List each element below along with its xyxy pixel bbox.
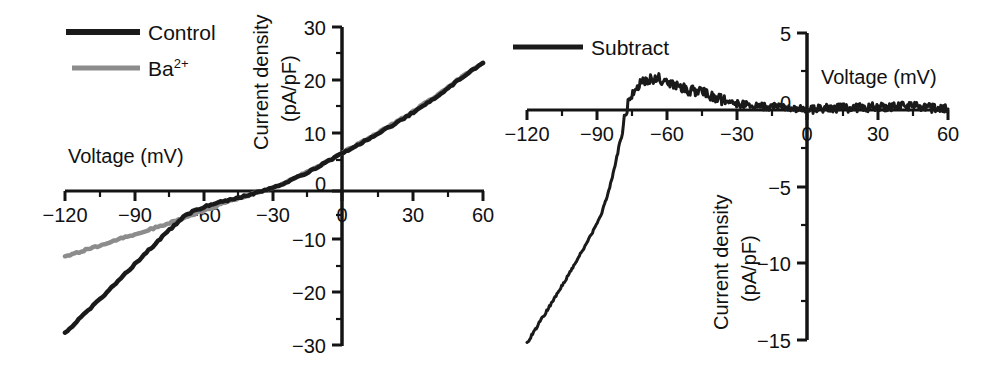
right-xtick-label-0: −120 bbox=[504, 123, 549, 145]
right-xtick-label-1: −90 bbox=[580, 123, 614, 145]
left-ytick-label-4: −10 bbox=[292, 229, 326, 251]
right-xtick-label-6: 60 bbox=[937, 123, 959, 145]
left-ytick-label-0: 30 bbox=[304, 17, 326, 39]
figure-iv-curves: Control Ba2+ Voltage (mV) Current densit… bbox=[0, 0, 991, 378]
legend-label-control: Control bbox=[148, 21, 216, 44]
left-xtick-label-1: −90 bbox=[118, 204, 152, 226]
right-yaxis-title-line1: Current density bbox=[710, 194, 732, 330]
left-xaxis-title: Voltage (mV) bbox=[68, 145, 184, 167]
right-xaxis-title: Voltage (mV) bbox=[821, 66, 937, 88]
right-ytick-label-4: −15 bbox=[757, 330, 791, 352]
left-ytick-label-2: 10 bbox=[304, 123, 326, 145]
left-ytick-label-3: 0 bbox=[315, 173, 326, 195]
right-ytick-label-2: −5 bbox=[768, 177, 791, 199]
left-plot-svg: Control Ba2+ Voltage (mV) Current densit… bbox=[0, 0, 500, 378]
legend-right: Subtract bbox=[513, 36, 669, 59]
left-yaxis-title-line1: Current density bbox=[250, 14, 272, 150]
left-xtick-label-4: 0 bbox=[336, 204, 347, 226]
right-xtick-label-4: 0 bbox=[801, 123, 812, 145]
legend-left: Control Ba2+ bbox=[66, 21, 216, 80]
right-xtick-label-5: 30 bbox=[867, 123, 889, 145]
panel-left-control-barium: Control Ba2+ Voltage (mV) Current densit… bbox=[0, 0, 500, 378]
right-ytick-label-0: 5 bbox=[780, 23, 791, 45]
left-xtick-label-3: −30 bbox=[256, 204, 290, 226]
left-xtick-label-0: −120 bbox=[42, 204, 87, 226]
right-xtick-label-2: −60 bbox=[650, 123, 684, 145]
legend-label-barium: Ba2+ bbox=[148, 56, 189, 80]
right-plot-svg: Subtract Voltage (mV) Current density (p… bbox=[491, 0, 991, 378]
right-xtick-label-3: −30 bbox=[720, 123, 754, 145]
left-ytick-label-1: 20 bbox=[304, 70, 326, 92]
left-ytick-label-6: −30 bbox=[292, 335, 326, 357]
right-ytick-label-3: −10 bbox=[757, 253, 791, 275]
panel-right-subtract: Subtract Voltage (mV) Current density (p… bbox=[491, 0, 991, 378]
left-xtick-label-5: 30 bbox=[402, 204, 424, 226]
left-ytick-label-5: −20 bbox=[292, 282, 326, 304]
legend-label-subtract: Subtract bbox=[591, 36, 669, 59]
left-yaxis-title-line2: (pA/pF) bbox=[278, 55, 300, 122]
